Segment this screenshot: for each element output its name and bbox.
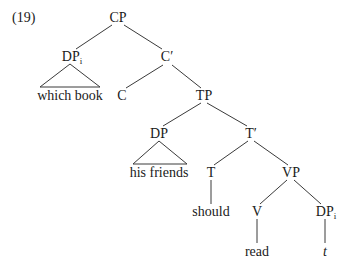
node-dp-trace-label: DP — [316, 204, 334, 219]
node-dp-wh: DPi — [62, 50, 82, 64]
leaf-which-book: which book — [37, 89, 103, 103]
node-t-bar: T′ — [245, 127, 257, 141]
leaf-should: should — [192, 205, 229, 219]
node-t: T — [207, 166, 216, 180]
node-tp: TP — [196, 89, 212, 103]
node-dp-wh-index: i — [80, 56, 83, 66]
leaf-read: read — [245, 245, 269, 259]
node-dp-subject: DP — [150, 127, 168, 141]
leaf-trace: t — [323, 245, 327, 259]
example-number: (19) — [12, 11, 35, 25]
node-dp-wh-label: DP — [62, 49, 80, 64]
node-c-bar: C′ — [161, 50, 173, 64]
node-vp: VP — [282, 166, 300, 180]
tree-branches — [0, 0, 349, 273]
node-c: C — [117, 89, 126, 103]
leaf-his-friends: his friends — [130, 166, 189, 180]
node-cp: CP — [109, 11, 126, 25]
node-dp-trace-index: i — [334, 211, 337, 221]
node-v: V — [252, 205, 262, 219]
node-dp-trace: DPi — [316, 205, 336, 219]
